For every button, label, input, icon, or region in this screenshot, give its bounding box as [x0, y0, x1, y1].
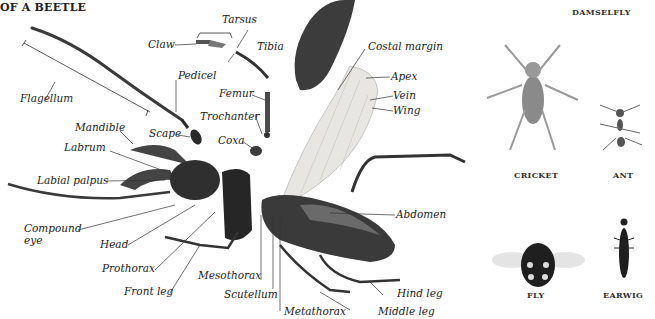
label-compound-eye-line2: eye	[24, 234, 42, 246]
label-front-leg: Front leg	[124, 285, 173, 297]
label-wing: Wing	[393, 104, 420, 116]
label-claw: Claw	[148, 38, 175, 50]
ant-illustration	[600, 105, 642, 150]
caption-ant: ANT	[613, 170, 633, 180]
label-hind-leg: Hind leg	[397, 287, 443, 299]
label-prothorax: Prothorax	[102, 262, 155, 274]
label-mandible: Mandible	[75, 121, 125, 133]
caption-damselfly: DAMSELFLY	[572, 7, 631, 17]
caption-fly: FLY	[527, 290, 544, 300]
beetle-anatomy-illustration	[0, 0, 655, 319]
label-scutellum: Scutellum	[224, 288, 278, 300]
label-flagellum: Flagellum	[20, 92, 73, 104]
label-trochanter: Trochanter	[200, 110, 259, 122]
label-tarsus: Tarsus	[222, 13, 257, 25]
caption-cricket: CRICKET	[514, 170, 558, 180]
label-metathorax: Metathorax	[284, 305, 346, 317]
label-labrum: Labrum	[64, 141, 106, 153]
label-abdomen: Abdomen	[396, 208, 446, 220]
label-mesothorax: Mesothorax	[198, 269, 261, 281]
label-middle-leg: Middle leg	[378, 305, 435, 317]
caption-earwig: EARWIG	[603, 290, 643, 300]
label-costal-margin: Costal margin	[368, 40, 443, 52]
label-femur: Femur	[219, 87, 254, 99]
label-tibia: Tibia	[257, 40, 284, 52]
label-compound-eye: Compound eye	[24, 222, 82, 246]
label-pedicel: Pedicel	[178, 69, 216, 81]
label-vein: Vein	[393, 89, 416, 101]
page-title: OF A BEETLE	[0, 1, 86, 14]
fly-illustration	[492, 243, 585, 287]
label-head: Head	[100, 238, 128, 250]
label-scape: Scape	[149, 127, 181, 139]
label-labial-palpus: Labial palpus	[37, 174, 108, 186]
cricket-illustration	[487, 45, 578, 150]
label-coxa: Coxa	[218, 134, 245, 146]
label-apex: Apex	[391, 70, 417, 82]
label-compound-eye-line1: Compound	[24, 222, 82, 234]
earwig-illustration	[614, 219, 634, 279]
